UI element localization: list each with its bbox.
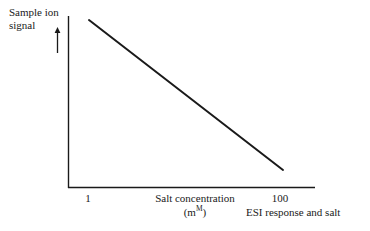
y-axis-label-line2: signal [9,19,59,32]
x-axis-unit: (mM) [130,206,260,219]
x-axis-label-text: Salt concentration [130,192,260,205]
x-tick-label-1: 1 [78,192,98,205]
y-axis-label: Sample ion signal [9,6,59,32]
data-trend-line [89,20,283,170]
x-axis-unit-prefix: (m [184,206,196,218]
x-axis-unit-superscript: M [196,204,203,213]
x-axis-unit-suffix: ) [203,206,207,218]
figure-caption: ESI response and salt [246,206,340,219]
x-axis-label: Salt concentration (mM) [130,192,260,219]
esi-response-salt-figure: Sample ion signal 1 100 Salt concentrati… [0,0,370,231]
y-axis-label-line1: Sample ion [9,6,59,19]
x-tick-label-100: 100 [265,192,295,205]
